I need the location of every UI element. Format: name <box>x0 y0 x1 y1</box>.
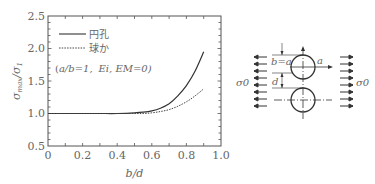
x-tick-labels: 0 0.2 0.4 0.6 0.8 1.0 <box>45 149 230 162</box>
y-ticks <box>48 23 221 140</box>
svg-text:σmax/σ1: σmax/σ1 <box>10 62 24 100</box>
legend: 円孔 球か <box>59 29 109 54</box>
radius-arrow-head <box>328 65 333 69</box>
y-axis-label: σmax/σ1 <box>10 62 24 100</box>
schematic-diagram <box>254 43 353 119</box>
x-ticks <box>65 16 203 146</box>
plot-frame <box>48 16 221 146</box>
y-tick-2.0: 2.0 <box>28 42 46 55</box>
legend-dashed-label: 球か <box>89 42 109 54</box>
x-tick-0.6: 0.6 <box>143 149 161 162</box>
b-equals-a-label: b=a <box>271 56 292 67</box>
parameter-annotation: (a/b=1,Ei, EM=0) <box>55 63 152 74</box>
radius-a-label: a <box>317 55 323 66</box>
legend-solid-label: 円孔 <box>89 29 109 40</box>
x-tick-0.2: 0.2 <box>74 149 92 162</box>
left-stress-arrows <box>254 55 267 108</box>
up-arrow-head <box>301 46 305 51</box>
x-tick-1.0: 1.0 <box>212 149 230 162</box>
y-tick-2.5: 2.5 <box>28 10 46 23</box>
y-tick-0.5: 0.5 <box>28 140 46 153</box>
y-tick-labels: 2.5 2.0 1.5 1.0 0.5 <box>28 10 46 153</box>
y-tick-1.5: 1.5 <box>28 75 46 88</box>
right-stress-label: σ0 <box>356 77 370 88</box>
series-circular-hole <box>48 52 204 114</box>
y-tick-1.0: 1.0 <box>28 107 46 120</box>
right-stress-arrows <box>340 55 353 108</box>
distance-d-label: d <box>272 76 278 87</box>
x-axis-label: b/d <box>126 167 144 180</box>
x-tick-0.8: 0.8 <box>178 149 196 162</box>
x-tick-0.4: 0.4 <box>108 149 126 162</box>
figure: 2.5 2.0 1.5 1.0 0.5 0 0.2 0.4 0.6 0.8 1.… <box>0 0 375 184</box>
x-tick-0: 0 <box>45 149 52 162</box>
left-stress-label: σ0 <box>236 77 250 88</box>
